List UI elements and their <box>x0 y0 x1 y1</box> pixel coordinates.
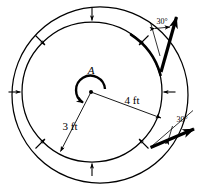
mechanics-figure: A 3 ft 4 ft 30° 30° <box>0 0 205 185</box>
radial-arrow-upper-left <box>36 36 46 46</box>
radial-arrow-lower-left <box>36 139 46 149</box>
upper-angle-label: 30° <box>156 17 167 26</box>
point-a-label: A <box>87 64 95 76</box>
inner-radius-label: 3 ft <box>63 120 78 132</box>
radial-arrow-lower-right <box>139 139 149 149</box>
upper-angle-reference-line <box>151 23 161 57</box>
couple-moment-arrow <box>76 76 105 103</box>
lower-angle-label: 30° <box>176 115 187 124</box>
figure-canvas: A 3 ft 4 ft 30° 30° <box>0 0 205 185</box>
outer-radius-label: 4 ft <box>125 94 140 106</box>
